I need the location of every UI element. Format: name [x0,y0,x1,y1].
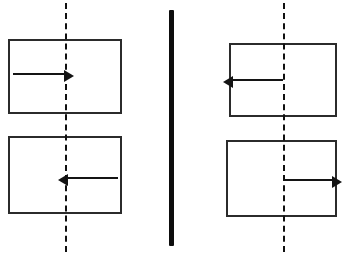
panel-right [174,0,348,261]
arrowhead-right-icon [332,176,342,188]
arrowhead-left-icon [223,76,233,88]
rectangle-bottom-right [226,140,337,217]
diagram-canvas [0,0,348,261]
arrow-right-top-left [13,73,65,75]
panel-left [0,0,169,261]
arrow-left-top-right [232,79,283,81]
dashed-axis-right [283,3,285,252]
dashed-axis-left [65,3,67,252]
arrow-right-bottom-right [283,179,333,181]
arrow-left-bottom-left [67,177,118,179]
